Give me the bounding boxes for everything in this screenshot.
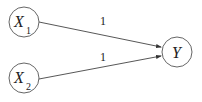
edge-x2-to-y: 1: [39, 50, 161, 79]
node-x1: X 1: [9, 7, 39, 37]
node-x2-subscript: 2: [26, 81, 31, 92]
node-y: Y: [162, 37, 192, 67]
node-x2-label: X: [13, 69, 25, 86]
diagram-canvas: 1 1 X 1 X 2 Y: [0, 0, 202, 102]
node-x1-label: X: [13, 13, 25, 30]
graph-svg: 1 1 X 1 X 2 Y: [0, 0, 202, 102]
node-x1-subscript: 1: [26, 25, 31, 36]
node-x2: X 2: [9, 63, 39, 93]
edge-weight-x2-y: 1: [100, 50, 106, 64]
edge-weight-x1-y: 1: [100, 14, 106, 28]
edge-x1-to-y: 1: [39, 14, 161, 47]
